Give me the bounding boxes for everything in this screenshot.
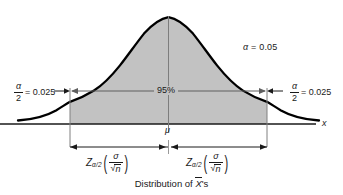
alpha-symbol: α bbox=[243, 42, 248, 52]
confidence-level-label: 95% bbox=[154, 86, 178, 95]
right-open-paren: ( bbox=[203, 153, 207, 173]
right-z-subscript: α/2 bbox=[192, 162, 202, 169]
left-sqrt-n: √n bbox=[109, 163, 124, 174]
confidence-span-right-arrowhead-icon bbox=[259, 88, 266, 94]
left-tail-arrowhead-icon bbox=[64, 88, 70, 94]
figure-caption: Distribution of X's bbox=[0, 178, 343, 189]
alpha-value: = 0.05 bbox=[251, 42, 277, 52]
right-tail-numerator: α bbox=[291, 82, 298, 92]
x-axis-label: x bbox=[322, 119, 327, 128]
right-sample-size-symbol: n bbox=[214, 164, 221, 174]
left-tail-value: = 0.025 bbox=[25, 88, 55, 97]
right-margin-start-arrowhead-icon bbox=[171, 144, 178, 150]
right-tail-area-label: α 2 = 0.025 bbox=[290, 82, 331, 103]
right-tail-fraction: α 2 bbox=[290, 82, 299, 103]
caption-suffix: 's bbox=[202, 178, 209, 189]
left-standard-error-ratio: σ √n bbox=[109, 152, 124, 174]
right-tail-denominator: 2 bbox=[291, 93, 298, 103]
left-sigma-symbol: σ bbox=[111, 152, 120, 162]
left-sample-size-symbol: n bbox=[114, 164, 121, 174]
left-tail-denominator: 2 bbox=[15, 93, 22, 103]
significance-level-label: α = 0.05 bbox=[243, 43, 278, 52]
left-tail-fraction: α 2 bbox=[14, 82, 23, 103]
right-tail-value: = 0.025 bbox=[301, 88, 331, 97]
right-margin-end-arrowhead-icon bbox=[260, 144, 267, 150]
left-z-subscript: α/2 bbox=[92, 162, 102, 169]
left-tail-area-label: α 2 = 0.025 bbox=[14, 82, 55, 103]
right-tail-arrowhead-icon bbox=[267, 88, 273, 94]
left-open-paren: ( bbox=[103, 153, 107, 173]
normal-distribution-figure: α = 0.05 α 2 = 0.025 α 2 = 0.025 95% μ x… bbox=[0, 0, 343, 195]
right-standard-error-ratio: σ √n bbox=[209, 152, 224, 174]
right-close-paren: ) bbox=[225, 153, 229, 173]
right-sigma-symbol: σ bbox=[211, 152, 220, 162]
left-margin-of-error-expression: Zα/2 ( σ √n ) bbox=[86, 152, 130, 174]
right-margin-of-error-expression: Zα/2 ( σ √n ) bbox=[186, 152, 230, 174]
confidence-span-left-arrowhead-icon bbox=[71, 88, 78, 94]
right-sqrt-n: √n bbox=[209, 163, 224, 174]
left-tail-numerator: α bbox=[15, 82, 22, 92]
left-margin-end-arrowhead-icon bbox=[159, 144, 166, 150]
left-margin-start-arrowhead-icon bbox=[70, 144, 77, 150]
caption-prefix: Distribution of bbox=[135, 178, 196, 189]
mean-label: μ bbox=[165, 126, 170, 135]
left-close-paren: ) bbox=[125, 153, 129, 173]
